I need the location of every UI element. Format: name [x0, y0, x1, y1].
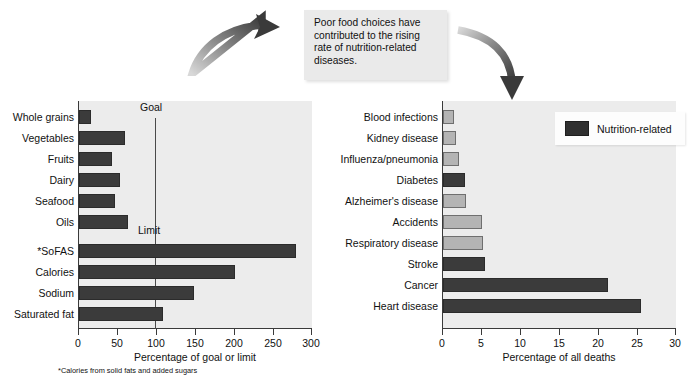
left-bar-oils — [79, 215, 128, 229]
left-bar-vegetables — [79, 131, 125, 145]
left-cat-label: Seafood — [0, 196, 74, 207]
right-cat-label: Influenza/pneumonia — [330, 154, 438, 165]
left-cat-label: Oils — [0, 217, 74, 228]
right-cat-label: Blood infections — [330, 112, 438, 123]
right-axis-tick — [559, 329, 560, 335]
figure: Poor food choices have contributed to th… — [0, 0, 690, 383]
left-tick-label: 150 — [175, 337, 215, 349]
right-bar-heart-disease — [443, 299, 641, 313]
left-axis-tick — [78, 329, 79, 335]
right-cat-label: Kidney disease — [330, 133, 438, 144]
left-bar-seafood — [79, 194, 115, 208]
right-axis-title: Percentage of all deaths — [439, 351, 679, 363]
right-cat-label: Stroke — [330, 259, 438, 270]
right-tick-label: 20 — [578, 337, 618, 349]
left-cat-label: Sodium — [0, 288, 74, 299]
left-axis-title: Percentage of goal or limit — [75, 351, 315, 363]
legend-label-nutrition-related: Nutrition-related — [597, 123, 672, 135]
left-bar-saturated-fat — [79, 307, 163, 321]
left-cat-label: Calories — [0, 267, 74, 278]
left-axis-tick — [311, 329, 312, 335]
right-cat-label: Accidents — [330, 217, 438, 228]
right-cat-label: Cancer — [330, 280, 438, 291]
right-cat-label: Respiratory disease — [330, 238, 438, 249]
right-cat-label: Heart disease — [330, 301, 438, 312]
right-bar-stroke — [443, 257, 485, 271]
goal-label: Goal — [140, 101, 162, 113]
right-tick-label: 0 — [422, 337, 462, 349]
legend-swatch-nutrition-related — [565, 121, 589, 136]
left-chart: Goal Limit Whole grains Vegetables Fruit… — [0, 0, 330, 383]
right-tick-label: 5 — [461, 337, 501, 349]
legend: Nutrition-related — [555, 112, 685, 145]
left-cat-label: Whole grains — [0, 112, 74, 123]
right-bar-respiratory-disease — [443, 236, 483, 250]
left-tick-label: 100 — [136, 337, 176, 349]
right-bar-blood-infections — [443, 110, 454, 124]
left-bar-sofas — [79, 244, 296, 258]
right-axis-tick — [520, 329, 521, 335]
left-bar-sodium — [79, 286, 194, 300]
left-axis-tick — [273, 329, 274, 335]
right-chart: Nutrition-related Blood infections Kidne… — [330, 0, 690, 383]
right-bar-kidney-disease — [443, 131, 456, 145]
left-axis-tick — [156, 329, 157, 335]
limit-label: Limit — [138, 224, 160, 236]
right-axis-tick — [637, 329, 638, 335]
right-tick-label: 15 — [539, 337, 579, 349]
left-tick-label: 0 — [58, 337, 98, 349]
right-cat-label: Alzheimer's disease — [330, 196, 438, 207]
left-tick-label: 200 — [214, 337, 254, 349]
left-cat-label: Fruits — [0, 154, 74, 165]
left-bar-dairy — [79, 173, 120, 187]
left-axis-tick — [234, 329, 235, 335]
right-cat-label: Diabetes — [330, 175, 438, 186]
left-tick-label: 300 — [291, 337, 331, 349]
right-bar-influenza-pneumonia — [443, 152, 459, 166]
right-bar-diabetes — [443, 173, 465, 187]
left-cat-label: Dairy — [0, 175, 74, 186]
right-bar-accidents — [443, 215, 482, 229]
right-tick-label: 10 — [500, 337, 540, 349]
left-bar-calories — [79, 265, 235, 279]
left-axis-tick — [117, 329, 118, 335]
right-tick-label: 30 — [655, 337, 690, 349]
left-cat-label: Vegetables — [0, 133, 74, 144]
right-axis-tick — [442, 329, 443, 335]
left-cat-label: Saturated fat — [0, 309, 74, 320]
left-tick-label: 50 — [97, 337, 137, 349]
right-axis-tick — [481, 329, 482, 335]
right-axis-tick — [598, 329, 599, 335]
left-chart-footnote: *Calories from solid fats and added suga… — [58, 366, 197, 375]
right-tick-label: 25 — [617, 337, 657, 349]
left-bar-whole-grains — [79, 110, 91, 124]
left-bar-fruits — [79, 152, 112, 166]
left-axis-tick — [195, 329, 196, 335]
left-tick-label: 250 — [253, 337, 293, 349]
left-cat-label: *SoFAS — [0, 246, 74, 257]
right-axis-tick — [675, 329, 676, 335]
right-bar-alzheimers-disease — [443, 194, 466, 208]
right-bar-cancer — [443, 278, 608, 292]
